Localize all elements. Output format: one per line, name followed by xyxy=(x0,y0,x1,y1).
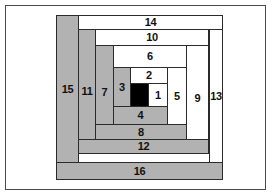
block-piece-1: 1 xyxy=(148,83,168,107)
piece-label: 3 xyxy=(119,82,125,93)
center-square xyxy=(130,83,149,107)
piece-label: 9 xyxy=(195,93,201,104)
block-piece-15: 15 xyxy=(56,15,79,163)
log-cabin-block: 12345678910111213141516 xyxy=(0,0,272,196)
piece-label: 11 xyxy=(81,86,92,97)
piece-label: 10 xyxy=(146,32,158,43)
block-piece-13: 13 xyxy=(209,29,223,163)
piece-label: 4 xyxy=(138,110,144,121)
piece-label: 8 xyxy=(138,127,144,138)
block-piece-11: 11 xyxy=(78,29,96,153)
piece-label: 16 xyxy=(134,166,146,177)
block-piece-8: 8 xyxy=(95,124,187,140)
piece-label: 1 xyxy=(155,90,161,101)
piece-label: 12 xyxy=(138,141,150,152)
block-piece-14: 14 xyxy=(78,15,223,30)
block-piece-2: 2 xyxy=(130,67,168,84)
piece-label: 5 xyxy=(174,91,180,102)
piece-label: 14 xyxy=(145,17,157,28)
diagram-canvas: 12345678910111213141516 xyxy=(0,0,272,196)
block-piece-6: 6 xyxy=(113,45,187,68)
block-piece-3: 3 xyxy=(113,67,131,107)
block-piece-12: 12 xyxy=(78,139,209,154)
piece-label: 15 xyxy=(62,84,74,95)
piece-label: 13 xyxy=(210,91,222,102)
piece-label: 2 xyxy=(146,70,152,81)
block-piece-5: 5 xyxy=(167,67,187,125)
piece-label: 6 xyxy=(147,51,153,62)
block-piece-4: 4 xyxy=(113,106,168,125)
block-piece-10: 10 xyxy=(95,29,209,46)
piece-label: 7 xyxy=(102,87,108,98)
block-piece-9: 9 xyxy=(186,45,209,152)
block-piece-16: 16 xyxy=(56,162,223,180)
